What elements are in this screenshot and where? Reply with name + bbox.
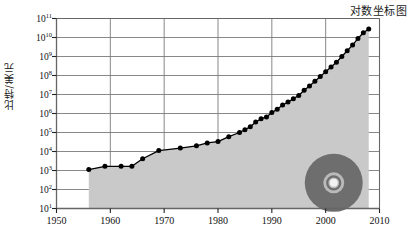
x-axis-tick-label: 1960 xyxy=(100,215,120,226)
x-axis-tick-label: 1970 xyxy=(154,215,174,226)
x-axis-tick-label: 2010 xyxy=(370,215,390,226)
x-axis-tick-label: 1990 xyxy=(262,215,282,226)
x-axis-tick-label: 2000 xyxy=(316,215,336,226)
x-axis-tick-labels: 1950196019701980199020002010 xyxy=(0,0,415,247)
x-axis-tick-label: 1980 xyxy=(208,215,228,226)
x-axis-tick-label: 1950 xyxy=(47,215,67,226)
chart-figure: 对数坐标图 比特/美元 1011021031041051061071081091… xyxy=(0,0,415,247)
